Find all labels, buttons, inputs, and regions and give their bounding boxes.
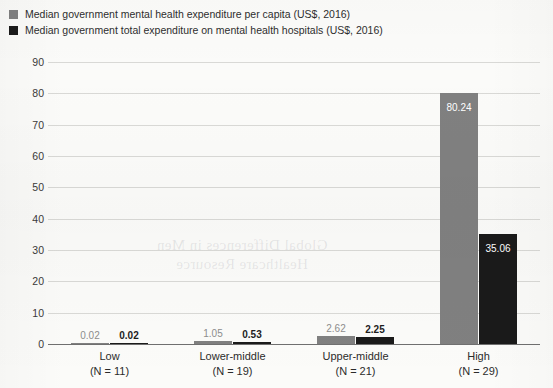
bar-lower-middle-series-1[interactable] — [194, 341, 232, 344]
category-sample-size: (N = 19) — [171, 364, 294, 379]
bar-value-label: 35.06 — [470, 243, 526, 254]
legend-item-per-capita: Median government mental health expendit… — [9, 7, 383, 21]
category-name: Upper-middle — [322, 350, 388, 362]
category-name: Lower-middle — [199, 350, 265, 362]
y-axis-tick-80: 80 — [2, 87, 44, 99]
category-sample-size: (N = 29) — [417, 364, 540, 379]
y-axis-tick-20: 20 — [2, 275, 44, 287]
bar-group: 1.050.53 — [194, 52, 271, 344]
category-sample-size: (N = 11) — [48, 364, 171, 379]
bar-low-series-1[interactable] — [71, 343, 109, 344]
chart-legend: Median government mental health expendit… — [9, 7, 383, 39]
legend-swatch-per-capita — [9, 10, 18, 19]
legend-swatch-hospitals — [9, 26, 18, 35]
legend-item-hospitals: Median government total expenditure on m… — [9, 23, 383, 37]
bar-upper-middle-series-2[interactable] — [356, 337, 394, 344]
chart-bars: 0.020.021.050.532.622.2580.2435.06 — [48, 52, 540, 344]
bar-high-series-1[interactable] — [440, 93, 478, 344]
bar-lower-middle-series-2[interactable] — [233, 342, 271, 344]
bar-group: 80.2435.06 — [440, 52, 517, 344]
y-axis-tick-0: 0 — [2, 338, 44, 350]
category-sample-size: (N = 21) — [294, 364, 417, 379]
x-axis-label-low: Low(N = 11) — [48, 349, 171, 378]
y-axis-tick-70: 70 — [2, 119, 44, 131]
x-axis-label-lower-middle: Lower-middle(N = 19) — [171, 349, 294, 378]
bar-low-series-2[interactable] — [110, 343, 148, 344]
bar-group: 2.622.25 — [317, 52, 394, 344]
legend-label-hospitals: Median government total expenditure on m… — [25, 25, 383, 36]
y-axis: 0102030405060708090 — [0, 52, 44, 344]
bar-value-label: 0.02 — [101, 330, 157, 341]
bar-value-label: 2.25 — [347, 324, 403, 335]
y-axis-tick-60: 60 — [2, 150, 44, 162]
bar-value-label: 0.53 — [224, 329, 280, 340]
y-axis-tick-40: 40 — [2, 213, 44, 225]
bar-upper-middle-series-1[interactable] — [317, 336, 355, 344]
category-name: Low — [99, 350, 119, 362]
chart-plot-area: 0102030405060708090 0.020.021.050.532.62… — [0, 52, 553, 348]
y-axis-tick-30: 30 — [2, 244, 44, 256]
y-axis-tick-90: 90 — [2, 56, 44, 68]
y-axis-tick-50: 50 — [2, 181, 44, 193]
legend-label-per-capita: Median government mental health expendit… — [25, 9, 350, 20]
x-axis-label-high: High(N = 29) — [417, 349, 540, 378]
category-name: High — [467, 350, 490, 362]
bar-value-label: 80.24 — [431, 102, 487, 113]
bar-group: 0.020.02 — [71, 52, 148, 344]
y-axis-tick-10: 10 — [2, 307, 44, 319]
x-axis-baseline — [48, 344, 540, 345]
x-axis-label-upper-middle: Upper-middle(N = 21) — [294, 349, 417, 378]
